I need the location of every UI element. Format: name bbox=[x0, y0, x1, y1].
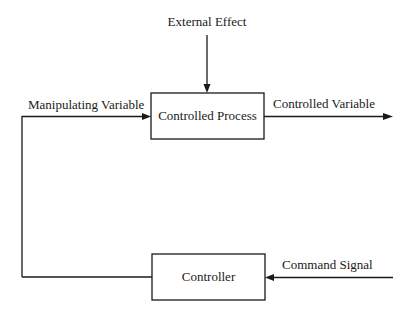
controlled-variable-label: Controlled Variable bbox=[273, 96, 375, 111]
controlled-process-label: Controlled Process bbox=[158, 108, 257, 123]
external-effect-arrowhead-icon bbox=[204, 84, 211, 93]
external-effect-label: External Effect bbox=[168, 14, 247, 29]
controller-label: Controller bbox=[182, 269, 236, 284]
feedback-path-line bbox=[22, 117, 144, 278]
controlled-variable-arrowhead-icon bbox=[383, 113, 393, 120]
manipulating-variable-label: Manipulating Variable bbox=[28, 97, 145, 112]
controlled-process-block: Controlled Process bbox=[151, 93, 264, 139]
command-signal-arrowhead-icon bbox=[265, 274, 274, 281]
control-diagram: External Effect Controlled Process Manip… bbox=[0, 0, 414, 321]
controller-block: Controller bbox=[152, 254, 265, 300]
command-signal-label: Command Signal bbox=[282, 257, 373, 272]
manipulating-variable-arrowhead-icon bbox=[142, 113, 151, 120]
